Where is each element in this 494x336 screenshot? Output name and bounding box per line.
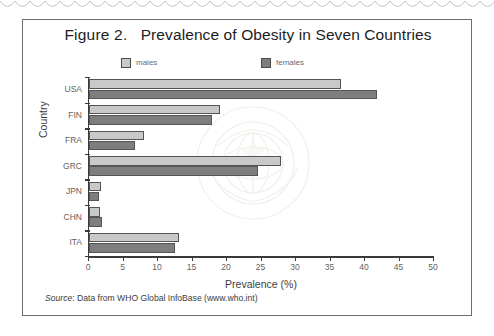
y-axis-tick — [85, 154, 90, 155]
x-axis-tick-label-20: 20 — [221, 262, 230, 272]
plot-area: USAFINFRAGRCJPNCHNITA — [88, 77, 434, 256]
x-axis-tick-label-30: 30 — [290, 262, 299, 272]
figure-container: Figure 2. Prevalence of Obesity in Seven… — [22, 19, 472, 316]
bar-jpn-males — [89, 182, 101, 192]
bar-group-usa: USA — [89, 77, 434, 103]
y-axis-label-chn: CHN — [64, 212, 82, 222]
bar-group-jpn: JPN — [89, 179, 434, 205]
x-axis-tick — [433, 256, 434, 261]
bar-jpn-females — [89, 192, 99, 202]
x-axis-tick — [123, 256, 124, 261]
source-note: Source: Data from WHO Global InfoBase (w… — [45, 293, 258, 303]
source-label: Source — [45, 293, 72, 303]
x-axis-tick — [157, 256, 158, 261]
bar-chn-males — [89, 207, 100, 217]
source-text: : Data from WHO Global InfoBase (www.who… — [72, 293, 257, 303]
bar-group-grc: GRC — [89, 154, 434, 180]
x-axis-ticks: 05101520253035404550 — [88, 256, 433, 276]
scalloped-page-border — [0, 0, 494, 14]
bar-group-fin: FIN — [89, 103, 434, 129]
x-axis-tick — [330, 256, 331, 261]
bar-usa-females — [89, 90, 377, 100]
y-axis-tick — [85, 230, 90, 231]
x-axis-tick-label-40: 40 — [359, 262, 368, 272]
x-axis-tick-label-50: 50 — [428, 262, 437, 272]
bar-grc-females — [89, 166, 258, 176]
x-axis-tick — [364, 256, 365, 261]
y-axis-label-jpn: JPN — [66, 186, 82, 196]
x-axis-tick — [261, 256, 262, 261]
x-axis-tick-label-0: 0 — [86, 262, 91, 272]
plot-wrapper: USAFINFRAGRCJPNCHNITA 051015202530354045… — [23, 20, 472, 316]
bar-group-chn: CHN — [89, 205, 434, 231]
y-axis-label-fra: FRA — [65, 135, 82, 145]
x-axis-tick-label-35: 35 — [325, 262, 334, 272]
x-axis-tick-label-25: 25 — [256, 262, 265, 272]
x-axis-tick-label-15: 15 — [187, 262, 196, 272]
y-axis-label-ita: ITA — [69, 237, 82, 247]
x-axis-tick-label-10: 10 — [152, 262, 161, 272]
x-axis-tick — [88, 256, 89, 261]
x-axis-tick — [295, 256, 296, 261]
y-axis-label-usa: USA — [65, 84, 82, 94]
bar-usa-males — [89, 79, 341, 89]
bar-group-fra: FRA — [89, 128, 434, 154]
y-axis-tick — [85, 128, 90, 129]
y-axis-label-grc: GRC — [63, 161, 82, 171]
y-axis-title: Country — [37, 101, 49, 138]
x-axis-title: Prevalence (%) — [88, 278, 434, 290]
x-axis-tick — [192, 256, 193, 261]
x-axis-tick-label-45: 45 — [394, 262, 403, 272]
x-axis-tick-label-5: 5 — [120, 262, 125, 272]
bar-chn-females — [89, 217, 102, 227]
bar-ita-females — [89, 243, 175, 253]
bar-fin-males — [89, 105, 220, 115]
y-axis-tick — [85, 77, 90, 78]
y-axis-tick — [85, 179, 90, 180]
y-axis-tick — [85, 103, 90, 104]
x-axis-tick — [226, 256, 227, 261]
bar-grc-males — [89, 156, 281, 166]
x-axis-tick — [399, 256, 400, 261]
y-axis-tick — [85, 205, 90, 206]
bar-fra-females — [89, 141, 135, 151]
bar-group-ita: ITA — [89, 230, 434, 256]
bar-fin-females — [89, 115, 212, 125]
bar-ita-males — [89, 233, 179, 243]
bar-fra-males — [89, 131, 144, 141]
y-axis-label-fin: FIN — [68, 110, 82, 120]
